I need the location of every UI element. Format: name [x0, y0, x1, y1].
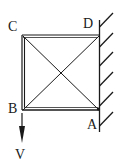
wall-support: [100, 13, 114, 132]
frame: [22, 35, 99, 110]
wall-hatch: [100, 52, 114, 66]
wall-hatch: [100, 72, 114, 86]
wall-hatch: [100, 13, 114, 27]
label-D: D: [83, 16, 93, 31]
label-B: B: [8, 101, 17, 116]
label-A: A: [87, 117, 98, 132]
wall-hatch: [100, 33, 114, 47]
label-C: C: [8, 19, 17, 34]
label-V: V: [15, 147, 25, 162]
truss-diagram: C D B A V: [0, 0, 124, 168]
arrow-down-icon: [19, 126, 25, 143]
joint-A: [97, 107, 100, 110]
load-arrow: [19, 113, 25, 143]
wall-hatch: [100, 112, 114, 126]
wall-hatch: [100, 92, 114, 106]
